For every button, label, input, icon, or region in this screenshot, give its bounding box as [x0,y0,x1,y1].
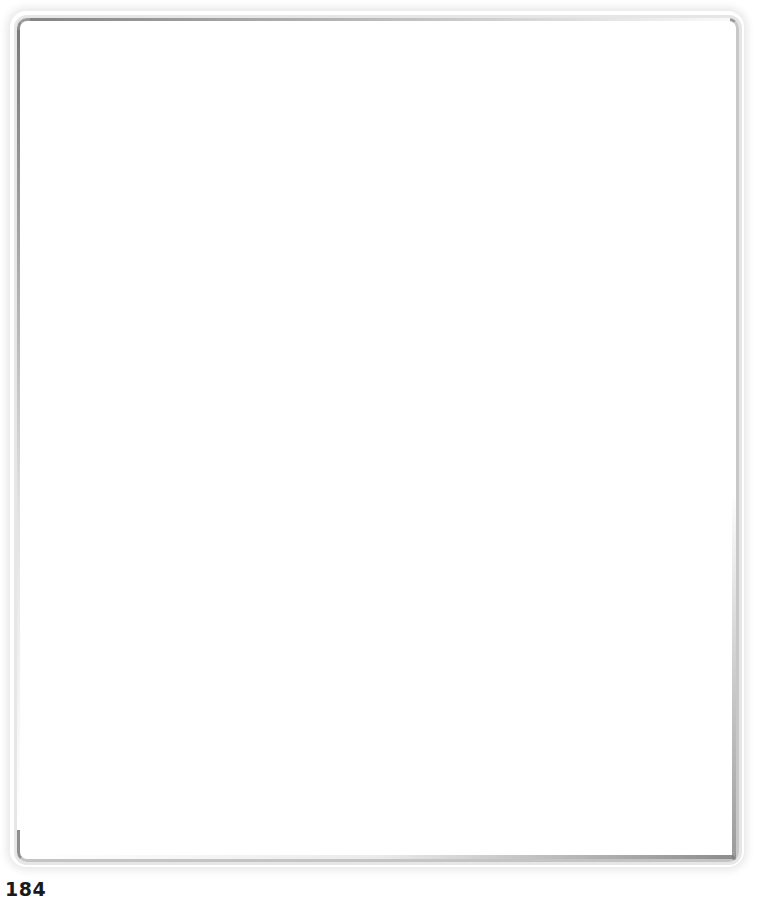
page-number: 184 [5,879,46,899]
frame-left-edge [17,30,20,830]
frame-bottom-edge [30,855,734,859]
answer-box-area [24,25,730,851]
frame-right-edge [732,40,736,860]
workbook-page: 184 [0,0,759,921]
frame-top-edge [30,18,730,21]
